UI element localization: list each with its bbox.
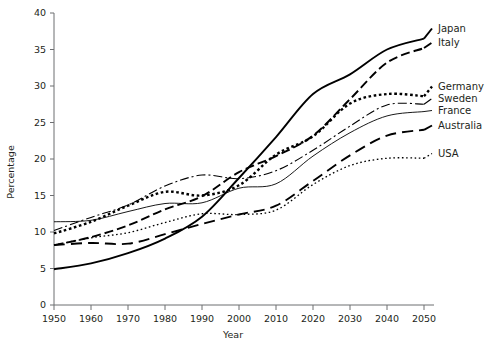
series-curves [54, 39, 424, 270]
x-tick-label: 2000 [227, 313, 251, 324]
leader-line-australia [424, 126, 432, 130]
series-label-italy: Italy [438, 37, 460, 48]
series-line-france [54, 112, 424, 222]
y-tick-label: 40 [34, 7, 46, 18]
y-tick-label: 25 [34, 117, 46, 128]
series-line-australia [54, 130, 424, 245]
x-tick-label: 2040 [375, 313, 399, 324]
x-tick-label: 1990 [190, 313, 214, 324]
x-tick-label: 2010 [264, 313, 288, 324]
x-tick-label: 1970 [116, 313, 140, 324]
leader-line-france [424, 111, 432, 112]
x-axis-ticks: 1950196019701980199020002010202020302040… [42, 305, 436, 324]
leader-line-germany [424, 87, 432, 97]
series-leader-lines [424, 29, 432, 159]
series-labels: JapanItalyGermanySwedenFranceAustraliaUS… [437, 23, 484, 159]
leader-line-usa [424, 154, 432, 159]
y-tick-label: 15 [34, 190, 46, 201]
series-label-usa: USA [438, 148, 459, 159]
series-line-japan [54, 39, 424, 270]
series-label-france: France [438, 105, 471, 116]
x-tick-label: 2020 [301, 313, 325, 324]
leader-line-sweden [424, 99, 432, 105]
leader-line-italy [424, 43, 432, 49]
y-tick-label: 20 [34, 153, 46, 164]
series-line-sweden [54, 103, 424, 230]
y-tick-label: 10 [34, 226, 46, 237]
series-label-germany: Germany [438, 81, 484, 92]
series-label-australia: Australia [438, 120, 482, 131]
x-tick-label: 1950 [42, 313, 66, 324]
x-tick-label: 1980 [153, 313, 177, 324]
y-axis-ticks: 0510152025303540 [34, 7, 54, 310]
series-line-italy [54, 48, 424, 245]
x-tick-label: 2030 [338, 313, 362, 324]
y-tick-label: 35 [34, 44, 46, 55]
x-tick-label: 1960 [79, 313, 103, 324]
series-label-sweden: Sweden [438, 93, 478, 104]
line-chart: 0510152025303540 19501960197019801990200… [0, 0, 488, 345]
x-axis-title: Year [222, 329, 243, 340]
y-tick-label: 0 [40, 299, 46, 310]
series-label-japan: Japan [437, 23, 466, 34]
y-tick-label: 5 [40, 263, 46, 274]
x-tick-label: 2050 [412, 313, 436, 324]
y-axis-title: Percentage [5, 145, 16, 199]
y-tick-label: 30 [34, 80, 46, 91]
chart-container: 0510152025303540 19501960197019801990200… [0, 0, 488, 345]
leader-line-japan [424, 29, 432, 39]
